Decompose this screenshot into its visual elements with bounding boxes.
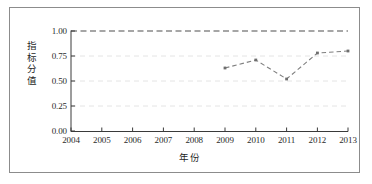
- ytick-label-1.00: 1.00: [41, 27, 67, 36]
- xtick-label-2007: 2007: [148, 136, 178, 145]
- x-axis: [71, 128, 348, 132]
- xtick-label-2010: 2010: [241, 136, 271, 145]
- y-axis-title-char-4: 值: [26, 75, 38, 87]
- xtick-label-2005: 2005: [87, 136, 117, 145]
- xtick-label-2009: 2009: [210, 136, 240, 145]
- ytick-label-0.75: 0.75: [41, 52, 67, 61]
- xtick-label-2011: 2011: [272, 136, 302, 145]
- y-axis-title-char-3: 分: [26, 63, 38, 75]
- data-point-markers: [224, 50, 350, 81]
- y-axis-title-char-2: 标: [26, 52, 38, 64]
- xtick-label-2013: 2013: [333, 136, 363, 145]
- xtick-label-2006: 2006: [118, 136, 148, 145]
- xtick-label-2012: 2012: [302, 136, 332, 145]
- ytick-label-0.50: 0.50: [41, 77, 67, 86]
- ytick-label-0.25: 0.25: [41, 102, 67, 111]
- xtick-label-2008: 2008: [179, 136, 209, 145]
- data-series-line: [225, 51, 348, 79]
- xtick-label-2004: 2004: [56, 136, 86, 145]
- chart-figure: 1.00 0.75 0.50 0.25 0.00 2004 2005 2006 …: [0, 0, 372, 184]
- x-axis-title: 年份: [150, 150, 230, 164]
- y-axis-title-char-1: 指: [26, 40, 38, 52]
- y-axis-title: 指 标 分 值: [26, 40, 38, 86]
- y-axis: [71, 31, 75, 132]
- gridlines: [71, 56, 348, 106]
